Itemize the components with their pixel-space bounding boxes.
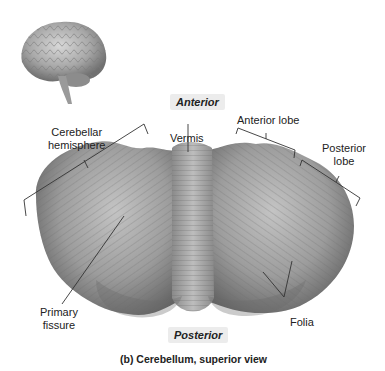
- folia-label: Folia: [290, 316, 314, 329]
- figure-caption: (b) Cerebellum, superior view: [120, 353, 267, 365]
- posterior-orientation-label: Posterior: [168, 327, 228, 343]
- posterior-lobe-label: Posterior lobe: [322, 142, 366, 168]
- primary-fissure-label: Primary fissure: [40, 306, 78, 332]
- anterior-lobe-label: Anterior lobe: [237, 114, 299, 127]
- cerebellar-hemisphere-label: Cerebellar hemisphere: [48, 126, 105, 152]
- brain-inset-icon: [21, 22, 106, 104]
- anterior-orientation-label: Anterior: [170, 94, 225, 110]
- vermis-label: Vermis: [170, 132, 204, 145]
